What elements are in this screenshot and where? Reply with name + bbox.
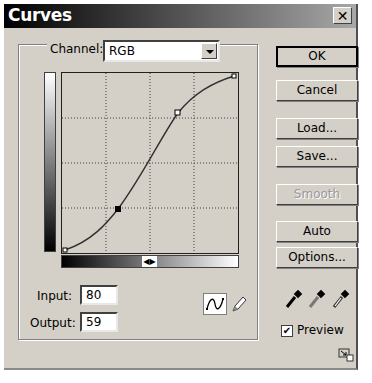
arrows-icon: ◀▶: [143, 257, 155, 266]
cancel-button[interactable]: Cancel: [276, 80, 358, 101]
expand-dialog-button[interactable]: [338, 347, 354, 361]
output-gradient-bar: [44, 72, 56, 252]
gray-eyedropper-button[interactable]: [308, 289, 326, 309]
gradient-toggle-button[interactable]: ◀▶: [142, 256, 157, 267]
white-eyedropper-icon: [332, 289, 350, 309]
curve-graph[interactable]: [61, 72, 239, 254]
curve-tool-button[interactable]: [203, 293, 227, 315]
curve-point-start[interactable]: [63, 248, 67, 252]
gray-eyedropper-icon: [308, 289, 326, 309]
save-button[interactable]: Save...: [276, 146, 358, 167]
curve-point-selected[interactable]: [115, 206, 121, 212]
preview-checkbox[interactable]: ✔: [281, 325, 293, 337]
channel-label: Channel:: [47, 42, 106, 56]
white-eyedropper-button[interactable]: [332, 289, 350, 309]
input-label: Input:: [37, 289, 72, 303]
channel-value: RGB: [109, 44, 135, 58]
output-label: Output:: [30, 316, 76, 330]
options-button[interactable]: Options...: [276, 247, 358, 268]
checkmark-icon: ✔: [283, 325, 291, 336]
pencil-icon: [230, 294, 248, 314]
input-gradient-bar: ◀▶: [61, 255, 239, 268]
chevron-down-icon[interactable]: [201, 43, 217, 59]
close-icon: ✕: [337, 8, 349, 24]
black-eyedropper-icon: [285, 289, 303, 309]
auto-button[interactable]: Auto: [276, 221, 358, 242]
pencil-tool-button[interactable]: [230, 294, 248, 314]
input-field[interactable]: 80: [80, 285, 118, 305]
black-eyedropper-button[interactable]: [285, 289, 303, 309]
curve-graph-svg: [62, 73, 238, 253]
title-bar[interactable]: Curves ✕: [4, 4, 356, 28]
curves-dialog: Curves ✕ Channel: RGB ◀▶ Input:: [4, 4, 358, 370]
smooth-button[interactable]: Smooth: [276, 184, 358, 205]
resize-icon: [338, 348, 354, 362]
load-button[interactable]: Load...: [276, 118, 358, 139]
preview-label: Preview: [297, 323, 344, 337]
window-title: Curves: [8, 5, 72, 25]
ok-button[interactable]: OK: [276, 46, 358, 67]
channel-select[interactable]: RGB: [103, 40, 220, 62]
grid-lines: [62, 73, 238, 253]
curve-point-end[interactable]: [232, 74, 236, 78]
curve-point[interactable]: [175, 110, 180, 115]
output-field[interactable]: 59: [80, 312, 118, 332]
close-button[interactable]: ✕: [333, 7, 352, 24]
curve-icon: [204, 294, 226, 314]
